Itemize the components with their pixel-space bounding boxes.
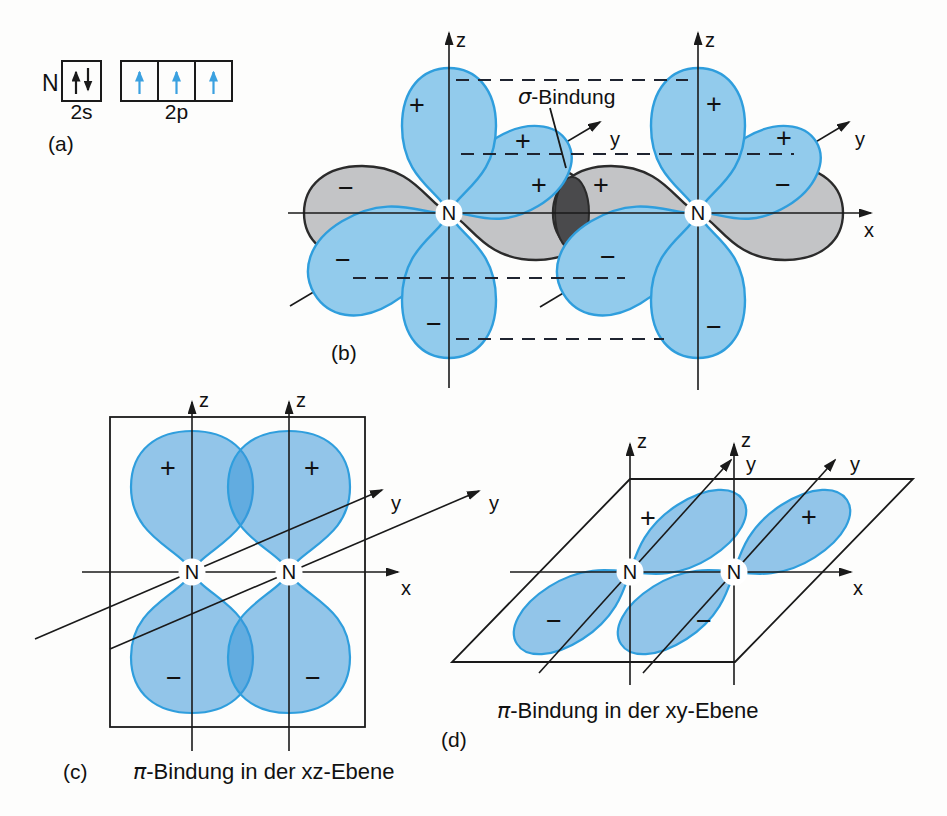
y-axis-label: y (489, 492, 499, 514)
z-axis-label: z (296, 389, 306, 411)
lobe-sign-minus: − (706, 312, 722, 342)
lobe-sign-plus: + (801, 502, 817, 532)
lobe-sign-plus: + (515, 126, 531, 156)
y-axis-label: y (391, 492, 401, 514)
panel-c-pi-bond-xz: z z x y y N N + + − − (c) π-Bindung in d… (35, 389, 499, 784)
caption-text: -Bindung in der xy-Ebene (510, 698, 758, 723)
atom-label: N (727, 561, 741, 583)
lobe-sign-minus: − (426, 309, 442, 339)
atom-label: N (185, 561, 199, 583)
figure-page: N 2s 2p (a) (0, 0, 947, 816)
pi-symbol: π (497, 698, 511, 723)
y-axis-label: y (746, 453, 756, 475)
sigma-text: -Bindung (531, 85, 615, 108)
lobe-sign-plus: + (776, 123, 792, 153)
lobe-sign-plus: + (640, 503, 656, 533)
z-axis-label: z (199, 389, 209, 411)
panel-d-caption: π-Bindung in der xy-Ebene (497, 698, 759, 723)
z-axis-label: z (705, 29, 715, 51)
y-axis-label: y (610, 128, 620, 150)
x-axis-label: x (864, 219, 874, 241)
panel-a-electron-configuration: N 2s 2p (a) (42, 61, 232, 155)
orbital-label-2s: 2s (70, 100, 92, 123)
pi-symbol: π (133, 759, 147, 784)
atom-label: N (623, 561, 637, 583)
lobe-sign-minus: − (546, 606, 562, 636)
y-axis-label: y (855, 128, 865, 150)
caption-text: -Bindung in der xz-Ebene (146, 759, 394, 784)
panel-c-tag: (c) (63, 760, 88, 783)
x-axis-label: x (401, 577, 411, 599)
panel-a-tag: (a) (48, 132, 74, 155)
element-symbol: N (42, 70, 59, 96)
x-axis-label: x (853, 577, 863, 599)
lobe-sign-minus: − (305, 663, 321, 693)
orbital-figure-canvas: N 2s 2p (a) (0, 0, 947, 816)
lobe-sign-plus: + (304, 453, 320, 483)
orbital-label-2p: 2p (165, 100, 188, 123)
lobe-sign-minus: − (600, 242, 616, 272)
lobe-sign-plus: + (531, 170, 547, 200)
atom-label: N (691, 202, 705, 224)
lobe-sign-minus: − (335, 245, 351, 275)
lobe-sign-minus: − (775, 170, 791, 200)
lobe-sign-minus: − (696, 606, 712, 636)
atom-label: N (282, 561, 296, 583)
z-axis-label: z (456, 29, 466, 51)
lobe-sign-plus: + (706, 89, 722, 119)
atom-label: N (442, 202, 456, 224)
lobe-sign-plus: + (160, 453, 176, 483)
panel-c-caption: π-Bindung in der xz-Ebene (133, 759, 395, 784)
lobe-sign-minus: − (166, 663, 182, 693)
sigma-bond-label: σ-Bindung (518, 85, 615, 109)
panel-d-pi-bond-xy: z z x y y N N + + − − (d) π-Bindung in d… (441, 429, 913, 751)
lobe-sign-plus: + (409, 90, 425, 120)
lobe-sign-plus: + (593, 170, 609, 200)
lobe-sign-minus: − (338, 173, 354, 203)
orbital-box-2s (62, 61, 101, 101)
z-axis-label: z (741, 429, 751, 451)
sigma-symbol: σ (518, 85, 532, 109)
z-axis-label: z (637, 430, 647, 452)
panel-d-tag: (d) (441, 728, 467, 751)
panel-b-sigma-bond: σ-Bindung z z x y y N N + + − + − − + + … (288, 29, 874, 390)
y-axis-label: y (850, 453, 860, 475)
panel-b-tag: (b) (331, 341, 357, 364)
